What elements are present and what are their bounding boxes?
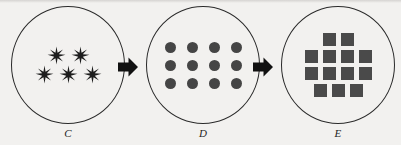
panel-c: C [8,0,128,145]
shape-field-e [281,6,395,124]
panel-label-e: E [278,126,398,140]
panel-d: D [143,0,263,145]
square-shape [332,84,345,97]
shape-row [165,42,242,53]
dot-shape [231,78,242,89]
dot-shape [209,42,220,53]
shape-row [165,78,242,89]
square-shape [314,84,327,97]
dot-shape [165,78,176,89]
dot-shape [187,60,198,71]
square-shape [323,67,336,80]
shape-field-d [146,6,260,124]
dot-shape [209,78,220,89]
shape-row [314,84,363,97]
dot-shape [187,78,198,89]
shape-row [305,67,372,80]
square-shape [341,50,354,63]
panel-e: E [278,0,398,145]
shape-row [47,46,90,65]
dot-shape [231,60,242,71]
square-shape [359,50,372,63]
star-shape [71,46,90,65]
panel-label-d: D [143,126,263,140]
panel-label-c: C [8,126,128,140]
square-shape [350,84,363,97]
dot-shape [209,60,220,71]
shape-row [35,65,102,84]
dot-shape [165,60,176,71]
square-shape [359,67,372,80]
square-shape [305,67,318,80]
shape-row [323,33,354,46]
dot-shape [165,42,176,53]
star-shape [35,65,54,84]
star-shape [47,46,66,65]
arrow-c-to-d-icon [117,56,139,78]
arrow-d-to-e-icon [252,56,274,78]
star-shape [59,65,78,84]
sequence-figure: C D E [0,0,401,145]
shape-field-c [11,6,125,124]
square-shape [305,50,318,63]
dot-shape [187,42,198,53]
square-shape [323,50,336,63]
square-shape [323,33,336,46]
shape-row [305,50,372,63]
dot-shape [231,42,242,53]
square-shape [341,33,354,46]
star-shape [83,65,102,84]
square-shape [341,67,354,80]
shape-row [165,60,242,71]
